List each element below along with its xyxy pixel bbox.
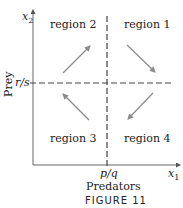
region-2-arrow-icon (63, 46, 90, 73)
region-4-label: region 4 (124, 132, 171, 145)
diagram-canvas (0, 0, 183, 208)
y-tick-label: r/s (15, 76, 30, 89)
region-1-arrow-icon (127, 45, 155, 72)
region-3-label: region 3 (50, 132, 97, 145)
y-axis-variable: x2 (22, 10, 33, 25)
figure-caption: FIGURE 11 (85, 195, 147, 206)
region-4-arrow-icon (128, 93, 153, 119)
region-2-label: region 2 (50, 18, 97, 31)
region-3-arrow-icon (63, 94, 89, 120)
x-axis-variable: x1 (168, 167, 179, 182)
region-1-label: region 1 (124, 18, 171, 31)
x-axis-title: Predators (86, 180, 141, 193)
x-tick-label: p/q (100, 167, 118, 180)
y-axis-title: Prey (2, 72, 15, 97)
predator-prey-phase-diagram: x2 x1 region 2 region 1 region 3 region … (0, 0, 183, 208)
